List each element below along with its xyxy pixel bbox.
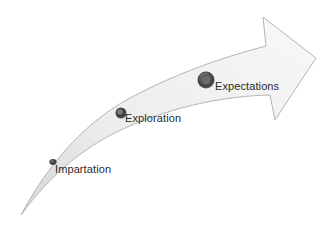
stage-label-exploration: Exploration	[125, 113, 181, 124]
stage-label-impartation: Impartation	[55, 164, 111, 175]
stage-marker-expectations	[198, 72, 215, 89]
stage-label-expectations: Expectations	[215, 81, 279, 92]
